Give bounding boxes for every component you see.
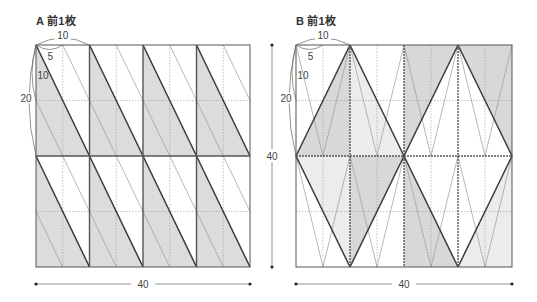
dimension-label: 10 xyxy=(37,70,49,81)
pattern-diagram: 105102040 10510204040 xyxy=(0,0,537,302)
dimension-label: 5 xyxy=(308,51,314,62)
dimension-label: 10 xyxy=(57,30,69,41)
dimension-label: 20 xyxy=(20,93,32,104)
dimension-label: 20 xyxy=(280,93,292,104)
dimension-label: 10 xyxy=(297,70,309,81)
dimension-label: 40 xyxy=(398,279,410,290)
dimension-label: 10 xyxy=(317,30,329,41)
dimension-label: 40 xyxy=(266,151,278,162)
panel-a-pattern xyxy=(36,45,250,267)
dimension-label: 5 xyxy=(48,51,54,62)
panel-b-pattern xyxy=(296,45,512,267)
dimension-label: 40 xyxy=(137,279,149,290)
